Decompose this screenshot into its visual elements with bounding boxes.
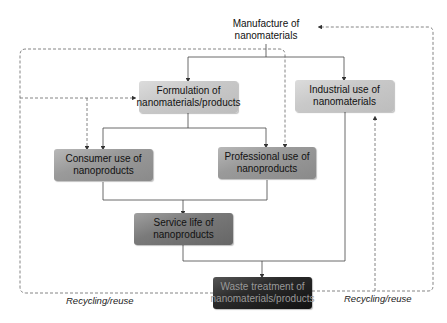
label-recycling-left: Recycling/reuse [66, 295, 134, 306]
label-recycling-right: Recycling/reuse [344, 293, 412, 304]
node-consumer: Consumer use of nanoproducts [54, 149, 153, 181]
node-industrial: Industrial use of nanomaterials [295, 80, 394, 112]
node-manufacture: Manufacture of nanomaterials [228, 18, 304, 42]
node-professional: Professional use of nanoproducts [218, 147, 316, 179]
node-formulation: Formulation of nanomaterials/products [139, 81, 238, 113]
node-waste: Waste treatment of nanomaterials/product… [213, 277, 312, 309]
node-service: Service life of nanoproducts [134, 213, 233, 245]
